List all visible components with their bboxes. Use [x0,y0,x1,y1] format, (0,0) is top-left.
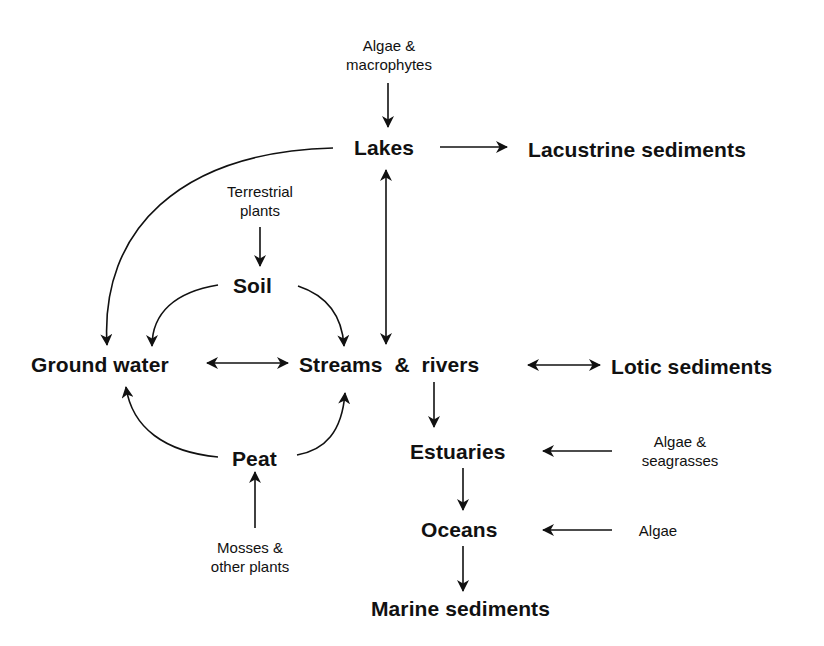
source-algae: Algae [628,521,688,540]
node-soil: Soil [233,275,272,296]
node-estuaries: Estuaries [410,441,505,462]
source-line: Algae & [342,36,436,55]
source-line: other plants [196,557,304,576]
arrow-lakes-to-groundwater [107,148,333,345]
source-line: Algae & [625,432,735,451]
node-lacustrine-sediments: Lacustrine sediments [528,139,746,160]
node-streams-rivers: Streams & rivers [299,354,479,375]
node-ground-water: Ground water [31,354,169,375]
node-oceans: Oceans [421,519,497,540]
source-algae-seagrasses: Algae & seagrasses [625,432,735,470]
arrow-soil-to-streams [298,286,344,346]
source-line: Algae [628,521,688,540]
arrow-peat-to-streams [297,393,345,455]
carbon-flow-diagram: Algae & macrophytes Terrestrial plants M… [0,0,824,646]
source-line: Mosses & [196,538,304,557]
node-peat: Peat [232,448,277,469]
node-lotic-sediments: Lotic sediments [611,356,772,377]
arrow-soil-to-groundwater [152,285,218,346]
source-terrestrial-plants: Terrestrial plants [215,182,305,220]
arrow-layer [0,0,824,646]
node-lakes: Lakes [354,137,414,158]
source-mosses-other-plants: Mosses & other plants [196,538,304,576]
source-line: Terrestrial [215,182,305,201]
node-marine-sediments: Marine sediments [371,598,550,619]
source-algae-macrophytes: Algae & macrophytes [342,36,436,74]
arrow-peat-to-groundwater [126,387,218,457]
source-line: seagrasses [625,451,735,470]
source-line: plants [215,201,305,220]
source-line: macrophytes [342,55,436,74]
